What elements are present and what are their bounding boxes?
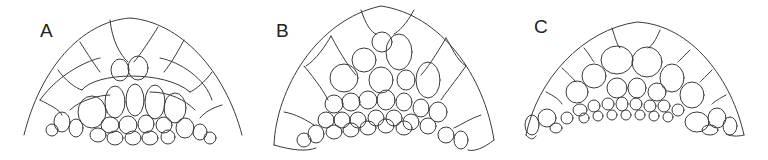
- cell-diagram-b: [256, 0, 512, 160]
- panel-b: B: [256, 0, 512, 160]
- cell-diagram-c: [512, 0, 768, 160]
- panel-c: C: [512, 0, 768, 160]
- cell-diagram-a: [0, 0, 256, 160]
- panel-a: A: [0, 0, 256, 160]
